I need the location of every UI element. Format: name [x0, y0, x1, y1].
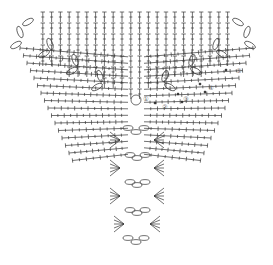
crochet-chart: ① ② ③ ④ ⑤ — [0, 0, 273, 265]
row-label-5: ⑤ — [236, 67, 241, 74]
row-label-1: ① — [143, 95, 148, 102]
row-label-3: ③ — [183, 95, 188, 102]
row-label-2: ② — [162, 103, 167, 110]
row-label-4: ④ — [208, 84, 213, 91]
